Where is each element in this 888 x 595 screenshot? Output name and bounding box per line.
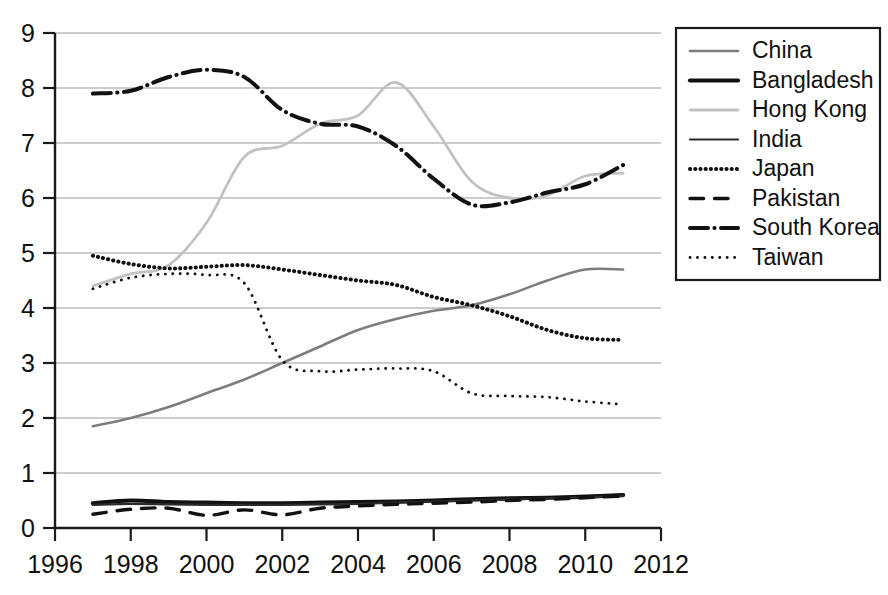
- y-tick-label: 7: [21, 129, 35, 157]
- x-tick-label: 2002: [254, 550, 310, 578]
- series-line-south-korea: [93, 70, 623, 206]
- y-axis: [43, 33, 55, 528]
- series-line-taiwan: [93, 274, 623, 405]
- x-tick-label: 2010: [557, 550, 613, 578]
- y-tick-labels: 0123456789: [21, 19, 35, 542]
- y-tick-label: 0: [21, 514, 35, 542]
- x-tick-label: 2006: [406, 550, 462, 578]
- legend-label: Pakistan: [752, 185, 840, 211]
- legend-label: Japan: [752, 155, 815, 181]
- y-tick-label: 4: [21, 294, 35, 322]
- gridlines: [55, 33, 661, 473]
- series-line-pakistan: [93, 496, 623, 515]
- x-tick-label: 2000: [179, 550, 235, 578]
- legend-label: Hong Kong: [752, 96, 867, 122]
- series-line-hong-kong: [93, 82, 623, 286]
- y-tick-label: 2: [21, 404, 35, 432]
- x-tick-labels: 199619982000200220042006200820102012: [27, 550, 689, 578]
- x-tick-label: 1996: [27, 550, 83, 578]
- x-tick-label: 2004: [330, 550, 386, 578]
- y-tick-label: 9: [21, 19, 35, 47]
- data-series-group: [93, 70, 623, 516]
- legend-label: India: [752, 126, 802, 152]
- chart-canvas: 0123456789 19961998200020022004200620082…: [0, 0, 888, 595]
- legend-label: South Korea: [752, 214, 880, 240]
- line-chart: 0123456789 19961998200020022004200620082…: [0, 0, 888, 595]
- y-tick-label: 8: [21, 74, 35, 102]
- x-tick-label: 2008: [482, 550, 538, 578]
- y-tick-label: 3: [21, 349, 35, 377]
- x-tick-label: 2012: [633, 550, 689, 578]
- series-line-china: [93, 269, 623, 427]
- series-line-japan: [93, 256, 623, 340]
- y-tick-label: 5: [21, 239, 35, 267]
- legend-label: Taiwan: [752, 244, 824, 270]
- y-tick-label: 6: [21, 184, 35, 212]
- y-tick-label: 1: [21, 459, 35, 487]
- x-axis: [55, 528, 661, 541]
- legend-label: China: [752, 37, 812, 63]
- chart-legend: ChinaBangladeshHong KongIndiaJapanPakist…: [676, 28, 880, 280]
- x-tick-label: 1998: [103, 550, 159, 578]
- legend-label: Bangladesh: [752, 67, 874, 93]
